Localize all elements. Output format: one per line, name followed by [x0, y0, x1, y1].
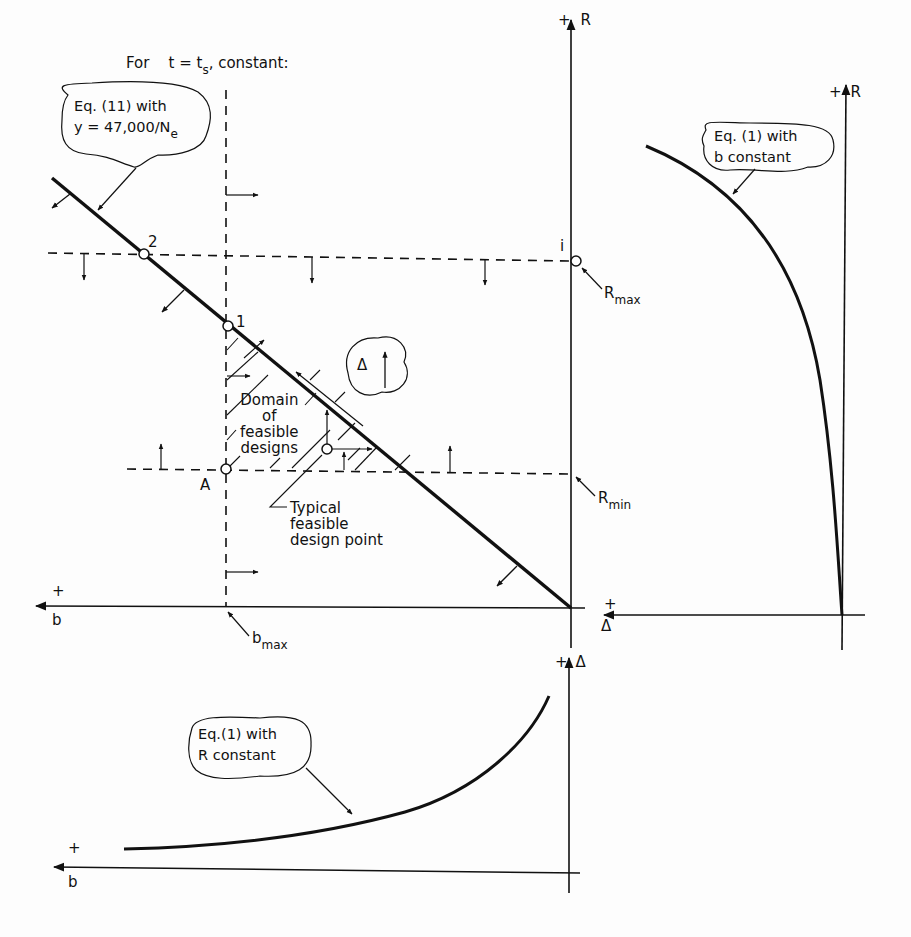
- eq1-r-constant-curve: [124, 696, 549, 849]
- eq1-r-constant-leader: [306, 768, 352, 814]
- r-max-line: [48, 253, 571, 261]
- eq1-b-constant-text: Eq. (1) with b constant: [714, 126, 798, 168]
- r-axis-right-label: +R: [829, 84, 861, 101]
- point-a-label: A: [200, 477, 210, 494]
- eq11-bubble-text: Eq. (11) with y = 47,000/Ne: [74, 96, 178, 139]
- b-axis-main-plus: +: [52, 583, 65, 600]
- point-a: [221, 464, 231, 474]
- b-axis-bottom: [54, 867, 580, 873]
- point-1: [223, 321, 233, 331]
- delta-axis-stub-plus: +: [604, 596, 617, 613]
- point-i: [571, 256, 581, 266]
- typical-point-label: Typical feasible design point: [290, 500, 383, 548]
- b-axis-bottom-plus: +: [68, 840, 81, 857]
- b-axis-main-label: b: [52, 612, 62, 629]
- constraint-arrow-2: [162, 290, 184, 312]
- constraint-arrow-1: [52, 194, 70, 208]
- typical-design-point: [322, 444, 332, 454]
- r-axis-main-label: +R: [558, 12, 591, 29]
- delta-direction-line: [296, 372, 363, 426]
- eq1-b-constant-leader: [733, 169, 755, 194]
- r-max-leader: [582, 268, 602, 289]
- domain-label: Domain of feasible designs: [240, 392, 299, 456]
- eq1-r-constant-text: Eq.(1) with R constant: [198, 724, 277, 766]
- delta-axis-stub-label: Δ: [601, 618, 611, 635]
- condition-suffix: , constant:: [209, 54, 289, 72]
- r-min-label: Rmin: [598, 490, 631, 508]
- r-max-label: Rmax: [604, 285, 641, 303]
- condition-expr: t = t: [169, 54, 203, 72]
- b-max-leader: [228, 612, 249, 636]
- eq1-b-constant-curve: [646, 146, 842, 615]
- eq11-line2: y = 47,000/Ne: [74, 117, 178, 139]
- condition-prefix: For: [126, 54, 149, 72]
- delta-bubble-label: Δ: [357, 357, 367, 374]
- r-min-leader: [576, 477, 595, 496]
- delta-bubble: [347, 337, 408, 395]
- condition-header: For t = ts, constant:: [126, 55, 288, 73]
- b-axis-main: [36, 606, 585, 608]
- point-2-label: 2: [148, 234, 158, 251]
- point-i-label: i: [560, 238, 564, 255]
- b-axis-bottom-label: b: [68, 874, 78, 891]
- eq11-leader: [98, 168, 136, 210]
- constraint-arrow-3: [497, 566, 517, 586]
- b-max-label: bmax: [252, 630, 288, 648]
- condition-sub: s: [202, 63, 208, 77]
- eq11-line1: Eq. (11) with: [74, 96, 178, 117]
- point-1-label: 1: [236, 314, 246, 331]
- r-min-line: [127, 469, 571, 474]
- r-axis-right: [842, 85, 846, 650]
- delta-axis-bottom-label: +Δ: [555, 654, 586, 671]
